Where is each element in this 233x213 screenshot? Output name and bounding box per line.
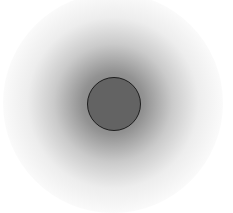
center-disc (87, 77, 141, 131)
canvas (0, 0, 233, 213)
